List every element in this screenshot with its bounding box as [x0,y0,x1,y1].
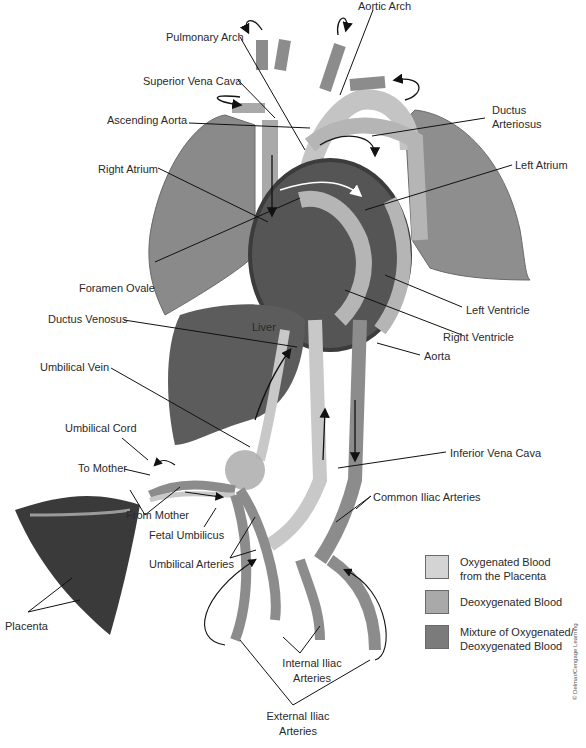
legend-label-deoxygenated: Deoxygenated Blood [460,595,562,609]
right-lung [149,115,255,315]
label-liver: Liver [252,321,276,334]
label-to-mother: To Mother [78,462,127,475]
label-umbilical-cord: Umbilical Cord [65,422,137,435]
label-internal-iliac-line2: Arteries [272,672,352,685]
label-external-iliac-line2: Arteries [258,725,338,738]
liver [168,304,305,445]
legend-label-mixture: Mixture of Oxygenated/ Deoxygenated Bloo… [460,625,574,653]
label-aorta: Aorta [424,350,450,363]
label-ductus-arteriosus-line2: Arteriosus [492,118,542,131]
label-ductus-venosus: Ductus Venosus [48,313,128,326]
label-umbilical-vein: Umbilical Vein [40,361,109,374]
label-left-ventricle: Left Ventricle [466,304,530,317]
label-left-atrium: Left Atrium [515,159,568,172]
label-ductus-arteriosus-line1: Ductus [492,104,526,117]
label-ascending-aorta: Ascending Aorta [107,114,187,127]
legend-label-oxygenated: Oxygenated Blood from the Placenta [460,555,551,583]
label-common-iliac-arteries: Common Iliac Arteries [373,491,481,504]
copyright-notice: © Delmar/Cengage Learning [572,624,578,700]
label-external-iliac-line1: External Iliac [258,710,338,723]
legend-swatch-oxygenated [425,555,449,579]
placenta [15,496,140,635]
legend-swatch-deoxygenated [425,590,449,614]
label-from-mother: From Mother [126,509,189,522]
label-internal-iliac-line1: Internal Iliac [272,657,352,670]
legend-item-mixture: Mixture of Oxygenated/ Deoxygenated Bloo… [425,625,574,653]
label-right-ventricle: Right Ventricle [443,331,514,344]
label-aortic-arch: Aortic Arch [358,0,411,13]
legend-item-oxygenated: Oxygenated Blood from the Placenta [425,555,551,583]
label-fetal-umbilicus: Fetal Umbilicus [149,529,224,542]
label-foramen-ovale: Foramen Ovale [79,282,155,295]
label-pulmonary-arch: Pulmonary Arch [166,31,244,44]
legend-item-deoxygenated: Deoxygenated Blood [425,590,562,614]
label-inferior-vena-cava: Inferior Vena Cava [450,447,541,460]
label-right-atrium: Right Atrium [98,163,158,176]
label-superior-vena-cava: Superior Vena Cava [143,75,241,88]
label-umbilical-arteries: Umbilical Arteries [149,558,234,571]
legend-swatch-mixture [425,625,449,649]
label-placenta: Placenta [5,620,48,633]
